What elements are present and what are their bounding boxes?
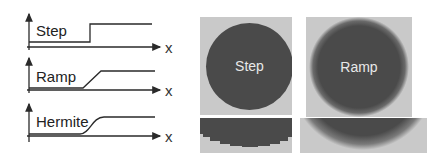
ramp-disc-panel: Ramp	[306, 17, 412, 117]
ramp-edge-zoom	[300, 118, 427, 153]
profile-graphs	[0, 0, 180, 159]
ramp-edge-shape	[300, 118, 427, 153]
graph-label-step: Step	[36, 22, 67, 39]
step-edge-shape	[200, 118, 292, 153]
step-disc-label: Step	[206, 58, 292, 74]
graph-label-hermite: Hermite	[36, 113, 89, 130]
graph-label-ramp: Ramp	[36, 68, 76, 85]
step-disc-panel: Step	[200, 17, 292, 115]
step-edge-zoom	[200, 118, 292, 153]
x-axis-label: x	[165, 128, 173, 145]
x-axis-label: x	[165, 39, 173, 56]
x-axis-label: x	[165, 82, 173, 99]
ramp-disc-label: Ramp	[309, 59, 409, 75]
